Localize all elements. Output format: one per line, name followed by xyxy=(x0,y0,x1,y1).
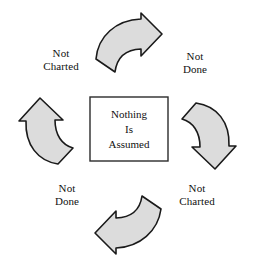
label-bottom-left-line-2: Done xyxy=(38,195,96,208)
label-top-left-line-2: Charted xyxy=(30,60,92,73)
left-arrow-icon xyxy=(19,98,73,164)
center-box-line-3: Assumed xyxy=(109,137,150,152)
bottom-arrow-icon xyxy=(95,196,161,254)
label-top-right: Not Done xyxy=(166,50,224,76)
center-box-text: Nothing Is Assumed xyxy=(90,97,168,161)
label-bottom-right-line-1: Not xyxy=(164,182,230,195)
top-arrow-icon xyxy=(96,13,162,72)
center-box-line-2: Is xyxy=(125,122,133,137)
label-top-right-line-2: Done xyxy=(166,63,224,76)
label-bottom-left-line-1: Not xyxy=(38,182,96,195)
label-bottom-left: Not Done xyxy=(38,182,96,208)
center-box-line-1: Nothing xyxy=(111,107,147,122)
cycle-diagram: Nothing Is Assumed Not Charted Not Done … xyxy=(0,0,256,268)
label-bottom-right-line-2: Charted xyxy=(164,195,230,208)
right-arrow-icon xyxy=(182,103,236,169)
label-top-left: Not Charted xyxy=(30,47,92,73)
label-top-left-line-1: Not xyxy=(30,47,92,60)
label-bottom-right: Not Charted xyxy=(164,182,230,208)
label-top-right-line-1: Not xyxy=(166,50,224,63)
